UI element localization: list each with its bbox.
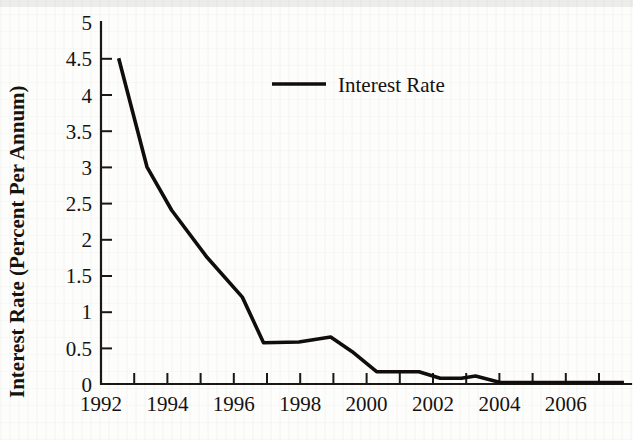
chart-page: Interest Rate (Percent Per Annum) 5 4.5 … [0, 0, 633, 440]
y-tick-labels: 5 4.5 4 3.5 3 2.5 2 1.5 1 0.5 0 [66, 11, 93, 397]
interest-rate-line-chart: Interest Rate (Percent Per Annum) 5 4.5 … [0, 0, 633, 440]
y-tick-label: 1.5 [66, 264, 92, 288]
y-tick-marks [101, 59, 112, 349]
x-tick-label: 2004 [478, 392, 521, 416]
y-tick-label: 1 [82, 300, 93, 324]
chart-legend: Interest Rate [272, 73, 445, 97]
y-tick-label: 3.5 [66, 120, 92, 144]
x-tick-label: 1996 [213, 392, 255, 416]
x-tick-label: 2000 [346, 392, 388, 416]
y-tick-label: 3 [82, 156, 93, 180]
x-tick-label: 1992 [80, 392, 122, 416]
x-tick-labels: 1992 1994 1996 1998 2000 2002 2004 2006 [80, 392, 587, 416]
x-tick-label: 1998 [279, 392, 321, 416]
y-axis-title: Interest Rate (Percent Per Annum) [5, 85, 29, 398]
x-tick-label: 2002 [412, 392, 454, 416]
series-line-interest-rate [119, 58, 624, 382]
x-tick-label: 1994 [146, 392, 189, 416]
y-tick-label: 0.5 [66, 337, 92, 361]
legend-label-interest-rate: Interest Rate [338, 73, 445, 97]
x-tick-label: 2006 [545, 392, 587, 416]
y-tick-label: 4 [82, 84, 93, 108]
y-tick-label: 5 [82, 11, 93, 35]
y-tick-label: 2 [82, 228, 93, 252]
y-tick-label: 2.5 [66, 192, 92, 216]
y-tick-label: 4.5 [66, 47, 92, 71]
